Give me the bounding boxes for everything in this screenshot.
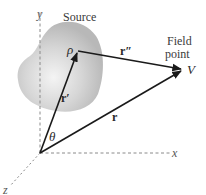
r-double-prime-label: r″ bbox=[120, 44, 132, 58]
angle-theta: θ bbox=[49, 129, 56, 144]
source-point-rho: ρ bbox=[66, 42, 73, 57]
z-axis bbox=[10, 153, 40, 186]
y-axis-label: y bbox=[36, 7, 43, 21]
vector-diagram: Source y x z ρ r′ r″ r θ Field point V bbox=[0, 0, 206, 195]
z-axis-label: z bbox=[2, 183, 8, 195]
x-axis-label: x bbox=[171, 146, 178, 160]
r-prime-label: r′ bbox=[61, 91, 70, 105]
field-point-label-line1: Field bbox=[167, 34, 192, 48]
field-point-label-line2: point bbox=[165, 47, 190, 61]
source-label: Source bbox=[63, 10, 96, 24]
field-point-V: V bbox=[187, 62, 197, 77]
r-label: r bbox=[112, 110, 118, 124]
